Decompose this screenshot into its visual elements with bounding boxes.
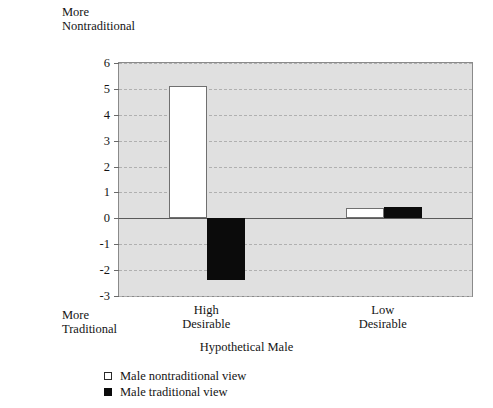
bar <box>207 218 245 280</box>
axis-note-bottom: More Traditional <box>62 309 117 336</box>
zero-baseline <box>119 218 472 219</box>
y-axis-tick-label: -3 <box>100 289 110 304</box>
y-axis-tick-label: -2 <box>100 263 110 278</box>
axis-note-top: More Nontraditional <box>62 6 135 33</box>
y-axis-tick-label: 2 <box>104 159 110 174</box>
y-axis-tick-label: 5 <box>104 81 110 96</box>
x-axis-label: Hypothetical Male <box>0 340 493 355</box>
y-axis-tick-label: -1 <box>100 237 110 252</box>
y-axis-tick-label: 1 <box>104 185 110 200</box>
y-axis-tick <box>114 270 119 271</box>
gridline <box>119 270 472 271</box>
gridline <box>119 244 472 245</box>
y-axis-tick <box>114 244 119 245</box>
y-axis-tick-label: 6 <box>104 56 110 71</box>
bar <box>384 207 422 219</box>
legend-item-label: Male traditional view <box>120 385 228 400</box>
y-axis-tick <box>114 192 119 193</box>
bar <box>346 208 384 218</box>
y-axis-tick <box>114 141 119 142</box>
y-axis-tick <box>114 89 119 90</box>
chart-legend: Male nontraditional view Male traditiona… <box>104 368 246 400</box>
x-axis-category-label: High Desirable <box>182 303 230 331</box>
plot-area: 6543210-1-2-3 <box>118 62 473 297</box>
figure-root: More Nontraditional 6543210-1-2-3 More T… <box>0 0 493 408</box>
y-axis-tick-label: 4 <box>104 107 110 122</box>
legend-item: Male traditional view <box>104 384 246 400</box>
y-axis-tick <box>114 115 119 116</box>
y-axis-tick <box>114 296 119 297</box>
gridline <box>119 296 472 297</box>
y-axis-tick <box>114 167 119 168</box>
bar <box>169 86 207 218</box>
legend-item-label: Male nontraditional view <box>120 369 246 384</box>
y-axis-tick-label: 0 <box>104 211 110 226</box>
legend-item: Male nontraditional view <box>104 368 246 384</box>
y-axis-tick <box>114 63 119 64</box>
gridline <box>119 63 472 64</box>
x-axis-category-label: Low Desirable <box>359 303 407 331</box>
black-square-icon <box>104 388 112 396</box>
white-square-icon <box>104 372 112 380</box>
y-axis-tick-label: 3 <box>104 133 110 148</box>
